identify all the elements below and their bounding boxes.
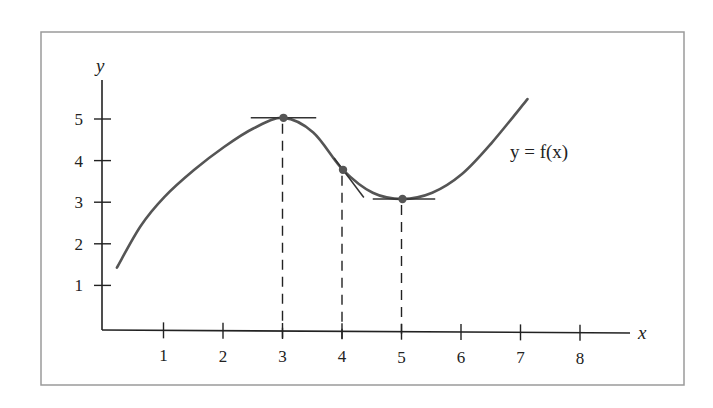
y-tick-label: 1	[75, 276, 84, 295]
x-axis-label: x	[637, 322, 647, 343]
y-tick-label: 3	[75, 193, 84, 212]
x-tick-label: 3	[278, 347, 287, 366]
critical-point-marker	[339, 166, 347, 174]
x-tick-label: 1	[159, 346, 168, 365]
x-tick-label: 2	[219, 347, 228, 366]
x-tick-label: 4	[338, 347, 347, 366]
x-tick-label: 5	[397, 348, 406, 367]
y-tick-label: 4	[75, 152, 84, 171]
y-tick-label: 2	[75, 235, 84, 254]
x-tick-label: 7	[516, 348, 525, 367]
x-tick-label: 8	[576, 349, 585, 368]
chart-svg: 1234567812345 x y y = f(x)	[0, 0, 713, 408]
curve-label: y = f(x)	[510, 141, 568, 163]
chart-figure: 1234567812345 x y y = f(x)	[0, 0, 713, 408]
critical-point-marker	[398, 195, 406, 203]
y-tick-label: 5	[75, 110, 84, 129]
x-tick-label: 6	[457, 348, 466, 367]
critical-point-marker	[279, 114, 287, 122]
y-axis-label: y	[94, 55, 105, 76]
